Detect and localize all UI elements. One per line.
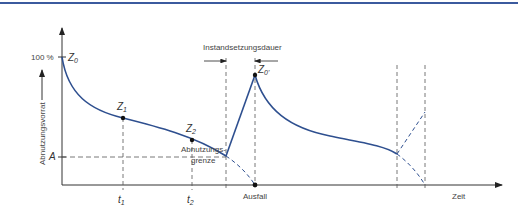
label-z0: Z0 <box>67 52 78 64</box>
label-t2: t2 <box>187 194 194 206</box>
wear-limit-label-2: grenze <box>191 156 216 165</box>
repair-rise <box>226 75 255 156</box>
point-failure <box>253 183 258 188</box>
point-z2 <box>190 138 194 142</box>
wear-curve-2 <box>255 75 397 154</box>
point-z1 <box>121 116 125 120</box>
failure-label: Ausfall <box>243 192 267 201</box>
cycle2-failure <box>397 154 425 185</box>
label-z1: Z1 <box>116 101 127 113</box>
wear-curve-1 <box>62 57 226 156</box>
label-z0p: Z0' <box>257 64 270 76</box>
point-z0p <box>253 73 257 77</box>
label-t1: t1 <box>118 194 125 206</box>
failure-continuation <box>226 156 255 185</box>
x-axis-label: Zeit <box>452 192 466 201</box>
y-tick-100-label: 100 % <box>31 53 54 62</box>
label-z2: Z2 <box>185 123 196 135</box>
y-axis-label: Abnutzungsvorrat <box>38 102 47 165</box>
repair-duration-label: Instandsetzungsdauer <box>203 43 282 52</box>
y-tick-a-label: A <box>48 151 56 162</box>
wear-limit-label-1: Abnutzungs- <box>181 145 226 154</box>
cycle2-rise <box>397 112 425 154</box>
wear-reserve-diagram: Abnutzungsvorrat 100 % A Instandsetzungs… <box>0 0 518 212</box>
